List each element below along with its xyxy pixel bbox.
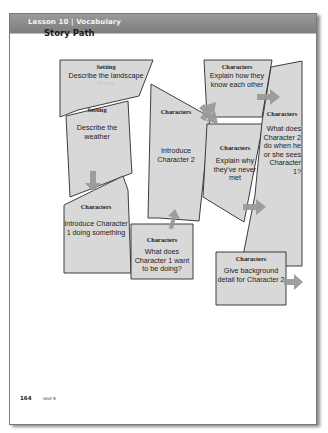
node-text: Introduce Character 1 doing something bbox=[64, 220, 128, 237]
node-text: What does Character 1 want to be doing? bbox=[131, 248, 193, 274]
node-introduce-char1: Characters Introduce Character 1 doing s… bbox=[64, 203, 128, 237]
node-text: Give background detail for Character 2 bbox=[216, 267, 286, 284]
node-landscape: Setting Describe the landscape START bbox=[60, 63, 152, 86]
node-category: Characters bbox=[207, 144, 263, 151]
node-never-met: Characters Explain why they've never met bbox=[207, 144, 263, 183]
node-category: Setting bbox=[60, 63, 152, 70]
page-number: 164 bbox=[20, 395, 31, 401]
arrow-right-icon bbox=[284, 274, 303, 290]
node-category: Characters bbox=[216, 255, 286, 262]
node-text: Describe the landscape bbox=[60, 72, 152, 81]
node-text: What does Character 2 do when he or she … bbox=[260, 125, 304, 177]
node-category: Characters bbox=[260, 110, 304, 117]
story-path-diagram bbox=[0, 0, 328, 433]
unit-label: Unit 9 bbox=[43, 396, 56, 401]
start-marker: START bbox=[60, 81, 152, 86]
node-text: Explain why they've never met bbox=[207, 157, 263, 183]
node-background-char2: Characters Give background detail for Ch… bbox=[216, 255, 286, 284]
node-text: Explain how they know each other bbox=[205, 72, 269, 89]
node-text: Describe the weather bbox=[66, 124, 128, 141]
node-category: Characters bbox=[205, 63, 269, 70]
node-know-each-other: Characters Explain how they know each ot… bbox=[205, 63, 269, 89]
node-category: Characters bbox=[131, 236, 193, 243]
node-category: Characters bbox=[148, 108, 204, 115]
node-char2-reaction: Characters What does Character 2 do when… bbox=[260, 110, 304, 177]
node-char1-want: Characters What does Character 1 want to… bbox=[131, 236, 193, 274]
node-category: Setting bbox=[66, 106, 128, 113]
node-text: Introduce Character 2 bbox=[148, 147, 204, 164]
node-introduce-char2: Characters Introduce Character 2 bbox=[148, 108, 204, 164]
node-weather: Setting Describe the weather bbox=[66, 106, 128, 141]
node-category: Characters bbox=[64, 203, 128, 210]
page-footer: 164 Unit 9 bbox=[20, 395, 56, 401]
